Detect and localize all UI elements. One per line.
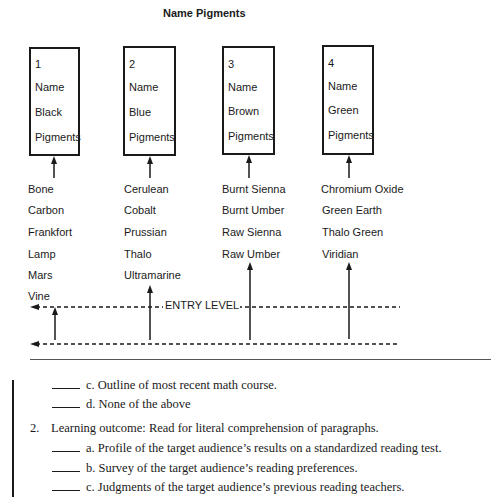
list-item: Vine: [28, 290, 50, 303]
option-letter: c.: [86, 480, 95, 494]
option-row: c. Judgments of the target audience’s pr…: [52, 479, 404, 495]
arrow-up-icon: [51, 155, 352, 178]
question-prompt: Learning outcome: Read for literal compr…: [51, 421, 379, 435]
list-item: Green Earth: [322, 204, 382, 217]
list-item: Cobalt: [124, 204, 156, 217]
list-item: Thalo: [124, 248, 152, 261]
option-text: Outline of most recent math course.: [98, 378, 277, 392]
list-item: Viridian: [322, 248, 359, 261]
option-letter: d.: [86, 397, 95, 411]
option-letter: b.: [86, 461, 95, 475]
section-divider: [30, 359, 491, 360]
list-item: Cerulean: [124, 183, 169, 196]
dashed-line: [36, 307, 400, 344]
list-item: Thalo Green: [322, 226, 383, 239]
option-text: Survey of the target audience’s reading …: [99, 461, 358, 475]
list-item: Raw Sienna: [222, 226, 281, 239]
option-row: c. Outline of most recent math course.: [52, 377, 277, 393]
list-item: Frankfort: [28, 226, 72, 239]
option-row: d. None of the above: [52, 396, 190, 412]
list-item: Carbon: [28, 204, 64, 217]
list-item: Ultramarine: [124, 269, 181, 282]
list-item: Burnt Sienna: [222, 183, 286, 196]
list-item: Bone: [28, 183, 54, 196]
answer-blank[interactable]: [52, 377, 80, 389]
option-text: None of the above: [99, 397, 191, 411]
question-2: 2.Learning outcome: Read for literal com…: [30, 420, 379, 436]
answer-blank[interactable]: [52, 440, 80, 452]
arrow-left-icon: [30, 304, 39, 347]
list-item: Mars: [28, 269, 52, 282]
option-text: Judgments of the target audience’s previ…: [98, 480, 405, 494]
option-letter: c.: [86, 378, 95, 392]
question-number: 2.: [30, 420, 51, 436]
list-item: Burnt Umber: [222, 204, 284, 217]
list-item: Raw Umber: [222, 248, 280, 261]
list-item: Chromium Oxide: [321, 183, 404, 196]
option-row: b. Survey of the target audience’s readi…: [52, 460, 358, 476]
answer-blank[interactable]: [52, 396, 80, 408]
answer-blank[interactable]: [52, 479, 80, 491]
answer-blank[interactable]: [52, 460, 80, 472]
margin-bar: [12, 380, 14, 497]
list-item: Lamp: [28, 248, 56, 261]
option-text: Profile of the target audience’s results…: [98, 441, 442, 455]
list-item: Prussian: [124, 226, 167, 239]
option-letter: a.: [86, 441, 95, 455]
entry-level-label: ENTRY LEVEL: [164, 299, 240, 311]
option-row: a. Profile of the target audience’s resu…: [52, 440, 442, 456]
